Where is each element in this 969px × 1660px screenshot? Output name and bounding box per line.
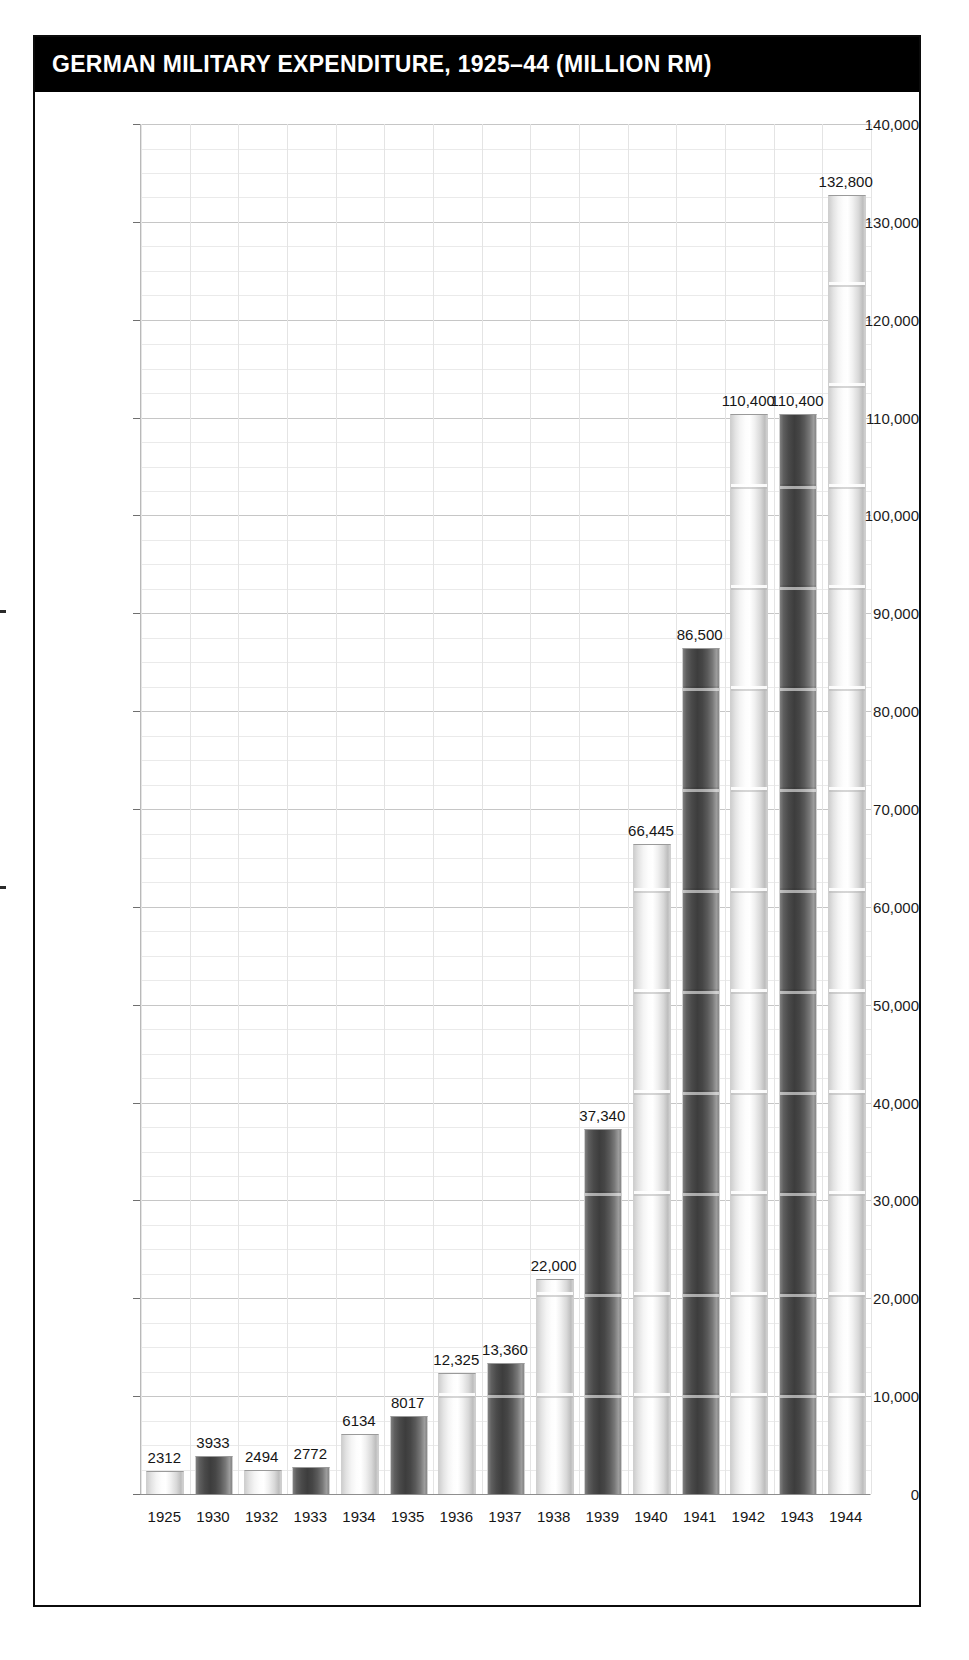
x-tick-label-1934: 1934 (342, 1508, 375, 1525)
bar-banding (683, 649, 719, 1495)
bar-banding (439, 1374, 475, 1494)
gridline-vertical (530, 124, 531, 1494)
bar-1942[interactable] (730, 414, 768, 1494)
bar-banding (537, 1280, 573, 1494)
bar-1943[interactable] (779, 414, 817, 1494)
y-tick-mark (133, 711, 140, 712)
x-tick-label-1944: 1944 (829, 1508, 862, 1525)
gridline-vertical (141, 124, 142, 1494)
y-tick-mark (133, 1200, 140, 1201)
x-tick-label-1942: 1942 (732, 1508, 765, 1525)
bar-1937[interactable] (487, 1363, 525, 1494)
x-tick-label-1939: 1939 (586, 1508, 619, 1525)
gridline-vertical (336, 124, 337, 1494)
bar-1935[interactable] (390, 1416, 428, 1495)
gridline-minor (141, 149, 871, 150)
x-tick-label-1937: 1937 (488, 1508, 521, 1525)
bar-banding (391, 1417, 427, 1495)
y-tick-label: 50,000 (823, 996, 919, 1013)
bar-value-label: 2494 (245, 1448, 278, 1465)
y-tick-label: 40,000 (823, 1094, 919, 1111)
bar-value-label: 37,340 (579, 1107, 625, 1124)
bar-1930[interactable] (195, 1456, 233, 1495)
x-tick-label-1932: 1932 (245, 1508, 278, 1525)
gridline-major (141, 222, 871, 223)
gridline-minor (141, 369, 871, 370)
y-tick-mark (133, 1298, 140, 1299)
bar-banding (196, 1457, 232, 1495)
y-tick-label: 20,000 (823, 1290, 919, 1307)
bar-banding (293, 1468, 329, 1494)
gridline-vertical (579, 124, 580, 1494)
bar-value-label: 3933 (196, 1434, 229, 1451)
bar-1936[interactable] (438, 1373, 476, 1494)
y-tick-mark (133, 907, 140, 908)
y-tick-mark (133, 1494, 140, 1495)
bar-1933[interactable] (292, 1467, 330, 1494)
chart-page: GERMAN MILITARY EXPENDITURE, 1925–44 (MI… (0, 0, 969, 1660)
gridline-major (141, 320, 871, 321)
bar-banding (245, 1471, 281, 1494)
bar-value-label: 66,445 (628, 822, 674, 839)
bar-banding (488, 1364, 524, 1494)
bar-1941[interactable] (682, 648, 720, 1495)
y-tick-mark (133, 222, 140, 223)
x-tick-label-1940: 1940 (634, 1508, 667, 1525)
y-tick-label: 90,000 (823, 605, 919, 622)
y-tick-mark (133, 124, 140, 125)
gridline-minor (141, 344, 871, 345)
chart-panel: GERMAN MILITARY EXPENDITURE, 1925–44 (MI… (33, 35, 921, 1607)
bar-1932[interactable] (244, 1470, 282, 1494)
bar-value-label: 110,400 (722, 392, 775, 409)
bar-1925[interactable] (146, 1471, 184, 1494)
y-tick-label: 100,000 (823, 507, 919, 524)
bar-1939[interactable] (584, 1129, 622, 1494)
y-tick-label: 30,000 (823, 1192, 919, 1209)
bar-1934[interactable] (341, 1434, 379, 1494)
x-tick-label-1925: 1925 (148, 1508, 181, 1525)
gridline-vertical (433, 124, 434, 1494)
y-tick-mark (133, 809, 140, 810)
bar-value-label: 8017 (391, 1394, 424, 1411)
y-tick-label: 10,000 (823, 1388, 919, 1405)
y-tick-mark (133, 1396, 140, 1397)
chart-area: 140,000130,000120,000110,000100,00090,00… (35, 92, 919, 1605)
gridline-vertical (190, 124, 191, 1494)
x-axis-line (140, 1494, 870, 1495)
y-tick-mark (133, 515, 140, 516)
bar-value-label: 2772 (294, 1445, 327, 1462)
x-tick-label-1941: 1941 (683, 1508, 716, 1525)
gridline-minor (141, 271, 871, 272)
bar-banding (342, 1435, 378, 1494)
y-tick-mark (133, 1103, 140, 1104)
gridline-minor (141, 173, 871, 174)
y-tick-label: 60,000 (823, 898, 919, 915)
bar-1940[interactable] (633, 844, 671, 1494)
y-tick-label: 0 (823, 1486, 919, 1503)
bar-value-label: 12,325 (433, 1351, 479, 1368)
y-tick-mark (133, 418, 140, 419)
y-tick-label: 110,000 (823, 409, 919, 426)
gridline-vertical (482, 124, 483, 1494)
bar-value-label: 110,400 (770, 392, 823, 409)
page-edge-mark (0, 610, 6, 613)
x-tick-label-1933: 1933 (294, 1508, 327, 1525)
gridline-vertical (238, 124, 239, 1494)
gridline-vertical (774, 124, 775, 1494)
bar-value-label: 6134 (342, 1412, 375, 1429)
page-title: GERMAN MILITARY EXPENDITURE, 1925–44 (MI… (35, 51, 712, 78)
y-tick-label: 70,000 (823, 801, 919, 818)
bar-banding (634, 845, 670, 1494)
bar-1938[interactable] (536, 1279, 574, 1494)
x-tick-label-1930: 1930 (196, 1508, 229, 1525)
page-edge-mark (0, 886, 6, 889)
bar-banding (585, 1130, 621, 1494)
x-tick-label-1938: 1938 (537, 1508, 570, 1525)
bar-banding (731, 415, 767, 1494)
gridline-vertical (628, 124, 629, 1494)
y-tick-mark (133, 1005, 140, 1006)
x-tick-label-1936: 1936 (440, 1508, 473, 1525)
gridline-vertical (384, 124, 385, 1494)
gridline-minor (141, 246, 871, 247)
y-tick-label: 130,000 (823, 213, 919, 230)
